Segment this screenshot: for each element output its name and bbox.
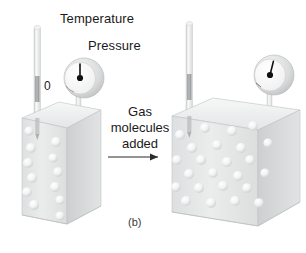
- label-gas-molecules-added: Gas molecules added: [105, 104, 175, 152]
- label-gauge-zero: 0: [44, 80, 51, 93]
- pressure-gauge-before: [64, 58, 104, 98]
- pressure-gauge-after: [254, 55, 294, 95]
- figure-caption: (b): [128, 216, 141, 228]
- container-before: [22, 26, 104, 225]
- label-temperature: Temperature: [60, 12, 134, 27]
- gas-pressure-figure: Temperature Pressure 0 Gas molecules add…: [0, 0, 306, 253]
- box-side-after: [258, 110, 300, 226]
- process-arrow: [108, 154, 158, 161]
- label-pressure: Pressure: [88, 39, 141, 54]
- container-after: [171, 22, 300, 227]
- box-side-before: [67, 110, 101, 224]
